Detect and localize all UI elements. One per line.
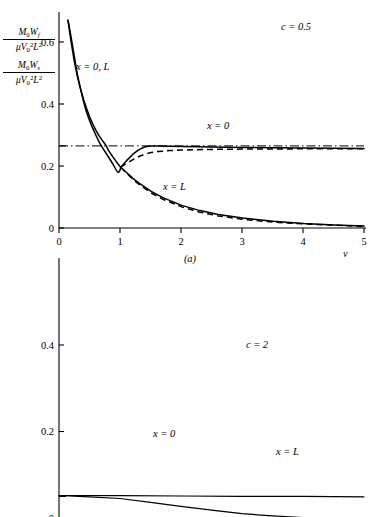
x-ticklabel-1: 1 (117, 236, 122, 247)
curve-label-xL-b: x = L (275, 446, 299, 457)
y-ticklabel-0: 0 (49, 223, 54, 234)
curve-x0-b (59, 496, 364, 497)
x-ticklabel-2: 2 (178, 236, 183, 247)
x-ticklabel-5: 5 (361, 236, 366, 247)
panel-a: 0 1 2 3 4 5 0 0.2 0.4 0.6 c (0, 0, 380, 258)
x-ticklabel-4: 4 (300, 236, 306, 247)
y-ticklabel-0.4: 0.4 (41, 99, 55, 110)
figure-container: 0 1 2 3 4 5 0 0.2 0.4 0.6 c (0, 0, 380, 517)
curve-xL-b (59, 496, 364, 517)
panel-b-plot: 0 1 2 3 4 5 0 0.2 0.4 c = 2 x = 0 x = L … (0, 258, 380, 517)
curve-label-x0-b: x = 0 (152, 428, 176, 439)
y-axis-label-group-a: M0Wf μV02L2 M0Ws μV02L2 (3, 27, 55, 94)
y-ticklabel-b-0: 0 (49, 513, 54, 517)
y-axis-label-wf-a: M0Wf μV02L2 (3, 27, 55, 53)
y-ticklabel-b-0.4: 0.4 (41, 340, 55, 351)
curve-label-xL-a: x = L (162, 181, 186, 192)
y-ticklabel-0.2: 0.2 (41, 161, 54, 172)
curve-xL-solid-a (121, 167, 364, 226)
curve-common-branch-a-main (68, 20, 121, 167)
x-ticklabel-0: 0 (56, 236, 61, 247)
curve-label-x0-a: x = 0 (206, 120, 230, 131)
y-ticklabel-b-0.2: 0.2 (41, 426, 54, 437)
panel-a-plot: 0 1 2 3 4 5 0 0.2 0.4 0.6 c (0, 0, 380, 258)
panel-b: 0 1 2 3 4 5 0 0.2 0.4 c = 2 x = 0 x = L … (0, 258, 380, 517)
curve-label-x0L-a: x = 0, L (75, 61, 109, 72)
curve-x0-dashed-a (121, 149, 364, 167)
y-axis-label-ws-a: M0Ws μV02L2 (3, 60, 55, 86)
annotation-c-b: c = 2 (246, 339, 269, 350)
curve-common-branch-a (68, 20, 121, 172)
x-ticklabel-3: 3 (239, 236, 244, 247)
annotation-c-a: c = 0.5 (281, 21, 311, 32)
